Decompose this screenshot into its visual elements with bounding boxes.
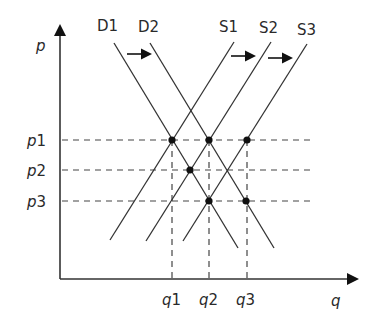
y-axis-label: p — [35, 37, 46, 55]
quantity-labels: q1 q2 q3 — [162, 291, 255, 309]
demand-curve-d1 — [114, 43, 238, 248]
p3-label: p3 — [26, 193, 46, 211]
quantity-guides — [172, 140, 247, 278]
point-s3-p1 — [243, 136, 250, 143]
point-d2-s2 — [205, 136, 212, 143]
supply-demand-diagram: p q p1 p2 p3 q1 q2 q3 D1 D2 S1 S2 S3 — [0, 0, 375, 324]
supply-shift-arrow-1-icon — [231, 51, 256, 62]
s2-label: S2 — [259, 19, 278, 37]
q2-label: q2 — [199, 291, 218, 309]
point-d1-s3 — [205, 197, 212, 204]
y-axis-arrow-icon — [54, 24, 66, 36]
axes: p q — [35, 24, 359, 310]
d2-label: D2 — [138, 18, 159, 36]
p1-label: p1 — [26, 132, 46, 150]
x-axis-arrow-icon — [347, 273, 359, 285]
s1-label: S1 — [219, 18, 238, 36]
demand-curves: D1 D2 — [97, 17, 274, 248]
x-axis-label: q — [331, 292, 341, 310]
q1-label: q1 — [162, 291, 181, 309]
demand-shift-arrow-icon — [127, 49, 152, 60]
p2-label: p2 — [26, 162, 46, 180]
supply-shift-arrow-2-icon — [268, 53, 293, 64]
point-d1-s2 — [186, 166, 193, 173]
q3-label: q3 — [236, 291, 255, 309]
s3-label: S3 — [297, 21, 316, 39]
point-d2-s3 — [242, 197, 249, 204]
d1-label: D1 — [97, 17, 118, 35]
shift-arrows — [127, 49, 293, 64]
point-d1-s1 — [168, 136, 175, 143]
price-labels: p1 p2 p3 — [26, 132, 46, 211]
